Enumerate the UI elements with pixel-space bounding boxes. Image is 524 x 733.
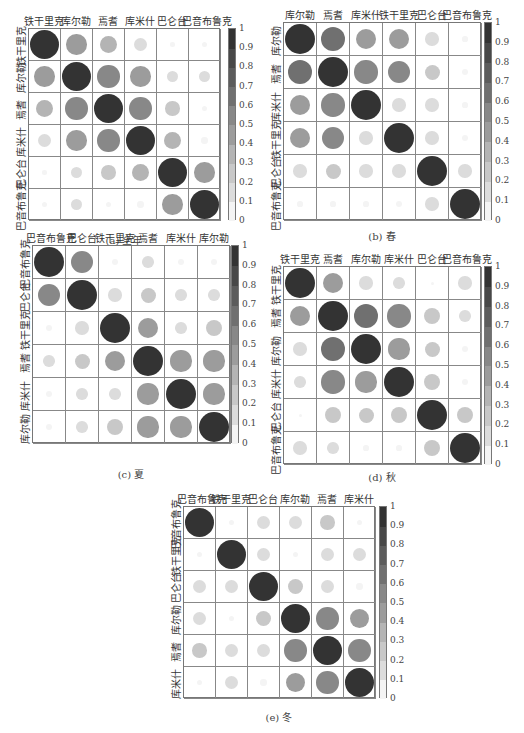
matrix-cell xyxy=(157,29,189,61)
correlation-circle xyxy=(388,338,409,359)
matrix-cell xyxy=(317,432,350,465)
matrix-cell xyxy=(33,345,66,378)
correlation-circle xyxy=(199,71,210,82)
correlation-circle xyxy=(462,135,469,142)
matrix-cell xyxy=(284,300,317,333)
colorbar-segment xyxy=(485,122,491,142)
correlation-circle xyxy=(225,644,238,657)
colorbar-tick-label: 1 xyxy=(390,502,396,511)
matrix-cell xyxy=(312,667,344,699)
matrix-cell xyxy=(317,23,350,56)
matrix-cell xyxy=(312,539,344,571)
correlation-grid xyxy=(183,506,375,698)
matrix-cell xyxy=(280,507,312,539)
colorbar-segment xyxy=(485,102,491,122)
correlation-circle xyxy=(100,36,117,53)
matrix-cell xyxy=(449,300,482,333)
correlation-circle xyxy=(327,442,339,454)
correlation-circle xyxy=(293,164,306,177)
correlation-circle xyxy=(318,301,348,331)
matrix-cell xyxy=(350,333,383,366)
colorbar-tick-label: 0.3 xyxy=(495,401,509,410)
correlation-circle xyxy=(108,288,121,301)
colorbar-segment xyxy=(485,346,491,366)
correlation-circle xyxy=(393,277,405,289)
correlation-circle xyxy=(289,516,302,529)
matrix-cell xyxy=(284,333,317,366)
matrix-cell xyxy=(350,155,383,188)
correlation-circle xyxy=(288,579,304,595)
colorbar-tick-label: 0.5 xyxy=(495,117,509,126)
correlation-circle xyxy=(137,416,158,437)
colorbar-tick-label: 0.9 xyxy=(495,282,509,291)
matrix-cell xyxy=(66,279,99,312)
colorbar-tick-label: 1 xyxy=(495,18,501,27)
colorbar-tick-label: 0.6 xyxy=(239,101,253,110)
correlation-circle xyxy=(249,572,278,601)
matrix-cell xyxy=(383,267,416,300)
matrix-cell xyxy=(29,61,61,93)
colorbar-tick-label: 0.5 xyxy=(495,361,509,370)
colorbar-segment xyxy=(232,266,238,286)
matrix-cell xyxy=(416,122,449,155)
matrix-cell xyxy=(184,635,216,667)
matrix-cell xyxy=(416,188,449,221)
matrix-cell xyxy=(216,667,248,699)
correlation-circle xyxy=(384,123,414,153)
matrix-cell xyxy=(312,635,344,667)
correlation-circle xyxy=(293,342,306,355)
matrix-cell xyxy=(33,279,66,312)
colorbar-tick-label: 0 xyxy=(390,694,396,703)
panel-caption: (c) 夏 xyxy=(71,466,191,481)
matrix-cell xyxy=(184,507,216,539)
matrix-cell xyxy=(416,399,449,432)
colorbar-tick-label: 0.9 xyxy=(495,38,509,47)
matrix-cell xyxy=(125,125,157,157)
correlation-circle xyxy=(137,201,143,207)
correlation-circle xyxy=(158,158,187,187)
matrix-cell xyxy=(317,333,350,366)
matrix-cell xyxy=(99,411,132,444)
correlation-circle xyxy=(359,164,372,177)
matrix-cell xyxy=(449,155,482,188)
matrix-cell xyxy=(189,125,221,157)
colorbar-tick-label: 0.8 xyxy=(239,62,253,71)
correlation-circle xyxy=(350,609,369,628)
correlation-circle xyxy=(462,346,469,353)
correlation-circle xyxy=(322,127,344,149)
matrix-cell xyxy=(125,189,157,221)
colorbar xyxy=(228,28,236,220)
colorbar-segment xyxy=(229,183,235,203)
correlation-circle xyxy=(284,639,306,661)
colorbar-segment xyxy=(229,87,235,107)
colorbar-tick-label: 0.8 xyxy=(495,58,509,67)
matrix-cell xyxy=(312,603,344,635)
correlation-circle xyxy=(202,42,207,47)
correlation-circle xyxy=(190,190,219,219)
correlation-circle xyxy=(281,604,310,633)
correlation-circle xyxy=(396,201,403,208)
matrix-cell xyxy=(284,56,317,89)
correlation-circle xyxy=(197,552,202,557)
matrix-cell xyxy=(312,571,344,603)
matrix-cell xyxy=(284,122,317,155)
matrix-cell xyxy=(350,188,383,221)
matrix-cell xyxy=(93,157,125,189)
matrix-cell xyxy=(317,399,350,432)
colorbar-tick-label: 0 xyxy=(495,216,501,225)
colorbar-segment xyxy=(485,201,491,221)
colorbar-tick-label: 0.6 xyxy=(390,579,404,588)
correlation-circle xyxy=(166,379,196,409)
matrix-cell xyxy=(216,539,248,571)
correlation-circle xyxy=(141,288,156,303)
correlation-circle xyxy=(138,318,158,338)
correlation-circle xyxy=(175,289,187,301)
correlation-circle xyxy=(197,680,202,685)
matrix-cell xyxy=(61,125,93,157)
column-label: 巴音布鲁克 xyxy=(182,13,226,28)
matrix-cell xyxy=(449,188,482,221)
matrix-cell xyxy=(383,399,416,432)
correlation-circle xyxy=(320,515,335,530)
matrix-cell xyxy=(29,29,61,61)
correlation-circle xyxy=(170,416,191,437)
